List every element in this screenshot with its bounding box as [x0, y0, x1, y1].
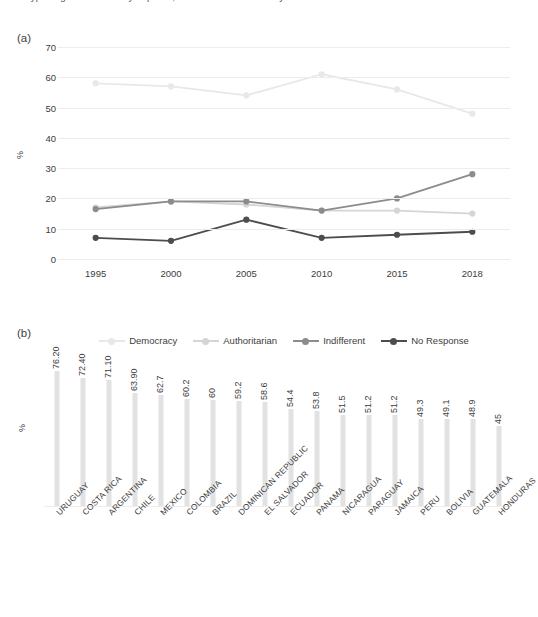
x-tick-label: 2005: [236, 268, 257, 279]
bar[interactable]: [445, 419, 450, 506]
bar-value-label: 49.3: [415, 399, 425, 417]
bar-value-label: 54.4: [285, 390, 295, 408]
bar-value-label: 49.1: [441, 399, 451, 417]
y-tick-label: 0: [32, 254, 56, 265]
bar-value-label: 51.5: [337, 395, 347, 413]
bar-value-label: 62.7: [155, 375, 165, 393]
bar-value-label: 53.8: [311, 391, 321, 409]
y-tick-label: 50: [32, 102, 56, 113]
y-tick-label: 30: [32, 163, 56, 174]
bar-value-label: 60.2: [181, 380, 191, 398]
cut-off-caption: type of government do you prefer, or doe…: [28, 0, 508, 2]
bar-value-label: 71.10: [103, 355, 113, 378]
bar-chart-b: % 76.2072.4071.1063.9062.760.26059.258.6…: [0, 340, 525, 617]
y-tick-label: 20: [32, 193, 56, 204]
bar-slot: 48.9: [460, 364, 486, 506]
y-axis-label-b: %: [17, 424, 27, 432]
bar-value-label: 51.2: [389, 396, 399, 414]
bar-value-label: 58.6: [259, 382, 269, 400]
bar-value-label: 51.2: [363, 396, 373, 414]
x-axis-ticks-a: 199520002005201020152018: [58, 40, 510, 290]
bar-value-label: 63.90: [129, 368, 139, 391]
bar-slot: 60.2: [174, 364, 200, 506]
bar-slot: 49.3: [408, 364, 434, 506]
y-axis-label-a: %: [15, 151, 25, 159]
y-tick-label: 40: [32, 132, 56, 143]
bar-value-label: 59.2: [233, 381, 243, 399]
y-tick-label: 70: [32, 42, 56, 53]
bar-value-label: 45: [493, 414, 503, 424]
line-chart-a: % 010203040506070 1995200020052010201520…: [0, 40, 525, 322]
x-tick-label: 2015: [386, 268, 407, 279]
x-tick-label: 1995: [85, 268, 106, 279]
x-tick-label: 2000: [160, 268, 181, 279]
bar-slot: 49.1: [434, 364, 460, 506]
y-axis-ticks-a: 010203040506070: [28, 40, 56, 262]
x-axis-country-labels: URUGUAYCOSTA RICAARGENTINACHILEMEXICOCOL…: [44, 510, 512, 610]
bar-value-label: 60: [207, 387, 217, 397]
panel-b-label: (b): [17, 327, 31, 339]
bar-slot: 51.5: [330, 364, 356, 506]
bar[interactable]: [237, 401, 242, 506]
y-tick-label: 60: [32, 72, 56, 83]
bar-value-label: 72.40: [77, 353, 87, 376]
x-tick-label: 2010: [311, 268, 332, 279]
bar-value-label: 48.9: [467, 400, 477, 418]
y-tick-label: 10: [32, 223, 56, 234]
bar-slot: 76.20: [44, 364, 70, 506]
bar-value-label: 76.20: [51, 346, 61, 369]
x-tick-label: 2018: [462, 268, 483, 279]
bar-slot: 62.7: [148, 364, 174, 506]
bar-slot: 59.2: [226, 364, 252, 506]
bar[interactable]: [55, 371, 60, 506]
bar[interactable]: [159, 395, 164, 506]
